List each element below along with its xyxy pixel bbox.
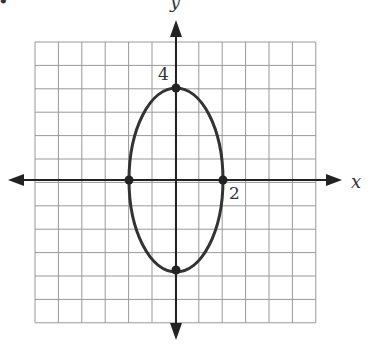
bullet-marker: • xyxy=(0,0,9,12)
y-axis-label: y xyxy=(169,0,181,12)
x-axis-label: x xyxy=(351,171,361,192)
tick-label-2: 2 xyxy=(229,183,240,203)
tick-label-4: 4 xyxy=(158,64,169,84)
ellipse-graph: 4 2 x y • xyxy=(0,0,373,344)
